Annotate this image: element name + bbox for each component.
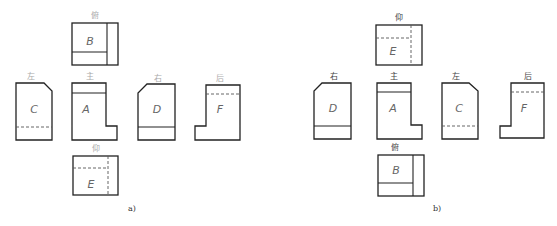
view-letter: C bbox=[455, 102, 463, 115]
view-a-top-b: 俯 B bbox=[72, 10, 118, 65]
view-a-left-c: 左 C bbox=[16, 71, 52, 140]
view-letter: E bbox=[88, 178, 95, 191]
view-outline bbox=[73, 156, 118, 195]
view-b-front-a: 主 A bbox=[377, 71, 422, 139]
figure-caption-b: b) bbox=[433, 204, 441, 213]
figure-a: 俯 B 左 C 主 A 右 D 后 bbox=[16, 10, 240, 213]
view-outline bbox=[377, 83, 422, 139]
view-letter: F bbox=[521, 102, 528, 115]
view-label-top: 俯 bbox=[91, 10, 99, 20]
view-label-bottom: 仰 bbox=[92, 143, 100, 153]
figure-caption-a: a) bbox=[128, 204, 136, 213]
view-letter: A bbox=[81, 103, 90, 116]
view-a-bottom-e: 仰 E bbox=[73, 143, 118, 195]
view-label-bottom: 仰 bbox=[395, 12, 403, 22]
figure-b: 仰 E 右 D 主 A 左 C 后 bbox=[314, 12, 544, 213]
view-a-front-a: 主 A bbox=[72, 71, 117, 140]
view-label-rear: 后 bbox=[216, 73, 224, 83]
view-letter: F bbox=[217, 103, 224, 116]
view-outline bbox=[72, 83, 117, 140]
view-letter: D bbox=[329, 102, 337, 115]
view-label-left: 左 bbox=[452, 71, 460, 81]
view-b-rear-f: 后 F bbox=[500, 71, 544, 138]
view-a-rear-f: 后 F bbox=[195, 73, 240, 140]
view-label-right: 右 bbox=[154, 73, 162, 83]
view-letter: B bbox=[86, 35, 94, 48]
view-outline bbox=[72, 23, 118, 65]
view-label-rear: 后 bbox=[524, 71, 532, 81]
view-letter: B bbox=[392, 164, 400, 177]
view-b-left-c: 左 C bbox=[442, 71, 478, 139]
view-letter: E bbox=[390, 45, 397, 58]
view-b-bottom-e: 仰 E bbox=[376, 12, 422, 65]
view-label-left: 左 bbox=[27, 71, 35, 81]
view-b-top-b: 俯 B bbox=[378, 142, 424, 196]
view-b-right-d: 右 D bbox=[314, 71, 351, 139]
view-letter: A bbox=[388, 102, 397, 115]
view-outline bbox=[376, 25, 422, 65]
view-outline bbox=[378, 155, 424, 196]
view-letter: C bbox=[30, 103, 38, 116]
view-a-right-d: 右 D bbox=[138, 73, 175, 140]
view-label-front: 主 bbox=[390, 71, 398, 81]
view-label-front: 主 bbox=[86, 71, 94, 81]
view-letter: D bbox=[153, 103, 161, 116]
view-label-top: 俯 bbox=[391, 142, 399, 152]
six-views-diagram: 俯 B 左 C 主 A 右 D 后 bbox=[0, 0, 557, 226]
view-label-right: 右 bbox=[330, 71, 338, 81]
